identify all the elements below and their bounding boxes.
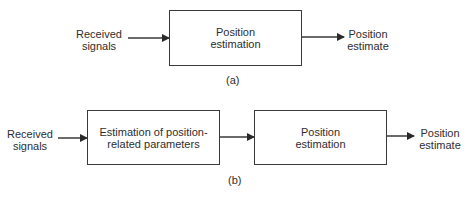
a-caption: (a) (226, 74, 239, 86)
a-box-label: Position estimation (210, 26, 260, 50)
b-box2-label: Position estimation (295, 126, 345, 150)
b-caption: (b) (228, 174, 241, 186)
a-output-label: Position estimate (343, 28, 393, 52)
b-box1-label: Estimation of position- related paramete… (99, 126, 207, 150)
a-input-label: Received signals (72, 28, 126, 52)
b-output-label: Position estimate (415, 127, 465, 151)
a-position-estimation-box: Position estimation (169, 10, 302, 66)
b-position-estimation-box: Position estimation (254, 110, 387, 165)
b-input-label: Received signals (5, 128, 55, 152)
b-parameter-estimation-box: Estimation of position- related paramete… (87, 110, 220, 165)
